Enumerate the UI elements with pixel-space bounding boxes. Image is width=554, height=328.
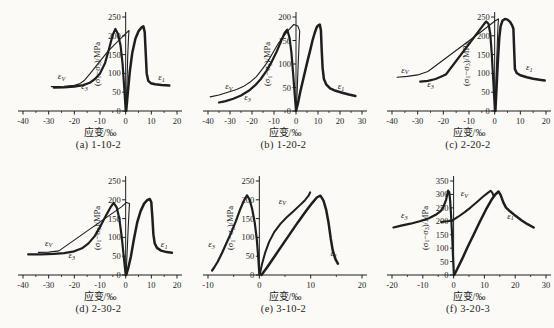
curve-eps1: [296, 25, 355, 112]
x-tick-label: -40: [386, 116, 397, 126]
subplot-e: -1001020050100150200250应变/‰(σ1−σ3)/MPaε3…: [185, 164, 370, 328]
x-tick-label: -20: [246, 116, 257, 126]
curve-label-eps1: ε1: [337, 81, 344, 92]
curve-label-epsV: εV: [45, 238, 54, 249]
x-tick-label: 10: [147, 280, 156, 290]
y-tick-label: 100: [278, 59, 291, 69]
y-tick-label: 350: [436, 176, 449, 186]
curve-eps1: [126, 26, 169, 111]
x-tick-label: 20: [172, 116, 181, 126]
y-tick-label: 100: [436, 243, 449, 253]
x-tick-label: 20: [335, 116, 344, 126]
caption-c: (c) 2-20-2: [370, 139, 554, 150]
y-tick-label: 200: [278, 12, 291, 22]
y-tick-label: 150: [477, 50, 490, 60]
x-tick-label: 0: [293, 116, 297, 126]
chart-c: -40-30-20-1001020050100150200250应变/‰(σ1−…: [370, 5, 554, 139]
x-tick-label: -20: [68, 280, 79, 290]
x-tick-label: 20: [172, 280, 181, 290]
x-tick-label: -10: [94, 280, 105, 290]
x-axis-label: 应变/‰: [268, 126, 301, 138]
x-tick-label: -40: [202, 116, 213, 126]
y-tick-label: 100: [241, 232, 254, 242]
x-axis-label: 应变/‰: [83, 126, 116, 138]
x-tick-label: 0: [451, 280, 455, 290]
y-tick-label: 0: [116, 270, 120, 280]
x-tick-label: -10: [417, 280, 428, 290]
x-tick-label: 10: [306, 280, 315, 290]
x-tick-label: 20: [357, 280, 366, 290]
figure-panel: -40-30-20-1001020050100150200250应变/‰(σ1−…: [0, 0, 554, 328]
y-axis-label: (σ1−σ3)/MPa: [420, 206, 431, 250]
x-tick-label: -10: [463, 116, 474, 126]
caption-a: (a) 1-10-2: [0, 139, 185, 150]
curve-label-eps1: ε1: [160, 239, 167, 250]
curve-label-epsV: εV: [461, 188, 470, 199]
y-tick-label: 100: [107, 232, 120, 242]
subplot-a: -40-30-20-1001020050100150200250应变/‰(σ1−…: [0, 0, 185, 164]
curve-label-epsV: εV: [401, 65, 410, 76]
curve-label-epsV: εV: [225, 81, 234, 92]
x-tick-label: 10: [313, 116, 322, 126]
curve-label-eps1: ε1: [158, 72, 165, 83]
y-tick-label: 0: [286, 106, 290, 116]
chart-f: -20-100102030050100150200250300350应变/‰(σ…: [370, 169, 554, 303]
y-tick-label: 0: [250, 270, 254, 280]
x-axis-label: 应变/‰: [453, 126, 486, 138]
y-tick-label: 250: [241, 176, 254, 186]
x-tick-label: -20: [68, 116, 79, 126]
curve-eps1: [495, 19, 544, 111]
y-tick-label: 250: [107, 176, 120, 186]
x-tick-label: -20: [438, 116, 449, 126]
curve-label-eps1: ε1: [330, 248, 337, 259]
caption-d: (d) 2-30-2: [0, 303, 185, 314]
y-tick-label: 250: [107, 12, 120, 22]
chart-a: -40-30-20-1001020050100150200250应变/‰(σ1−…: [1, 5, 185, 139]
y-tick-label: 50: [112, 251, 121, 261]
y-tick-label: 150: [107, 50, 120, 60]
y-tick-label: 250: [477, 12, 490, 22]
x-tick-label: -30: [42, 116, 53, 126]
x-tick-label: 0: [123, 116, 127, 126]
x-tick-label: -30: [224, 116, 235, 126]
subplot-b: -40-30-20-100102030050100150200应变/‰(σ1−σ…: [185, 0, 370, 164]
x-tick-label: -20: [386, 280, 397, 290]
y-tick-label: 0: [485, 106, 489, 116]
curve-label-epsV: εV: [57, 71, 66, 82]
x-tick-label: 0: [123, 280, 127, 290]
curve-eps1: [454, 192, 534, 276]
x-tick-label: -30: [42, 280, 53, 290]
chart-e: -1001020050100150200250应变/‰(σ1−σ3)/MPaε3…: [186, 169, 370, 303]
subplot-d: -40-30-20-1001020050100150200250应变/‰(σ1−…: [0, 164, 185, 328]
curve-eps1: [126, 199, 172, 275]
y-tick-label: 50: [112, 87, 121, 97]
x-axis-label: 应变/‰: [268, 290, 301, 302]
x-tick-label: 30: [357, 116, 366, 126]
subplot-f: -20-100102030050100150200250300350应变/‰(σ…: [370, 164, 554, 328]
caption-b: (b) 1-20-2: [185, 139, 370, 150]
y-axis-label: (σ1−σ3)/MPa: [91, 206, 102, 250]
y-tick-label: 50: [282, 83, 291, 93]
y-tick-label: 100: [107, 68, 120, 78]
x-axis-label: 应变/‰: [453, 290, 486, 302]
caption-f: (f) 3-20-3: [370, 303, 554, 314]
x-tick-label: -40: [17, 280, 28, 290]
y-tick-label: 50: [481, 87, 490, 97]
y-tick-label: 50: [440, 257, 449, 267]
x-axis-label: 应变/‰: [83, 290, 116, 302]
x-tick-label: 10: [147, 116, 156, 126]
curve-label-eps3: ε3: [401, 210, 408, 221]
x-tick-label: -10: [268, 116, 279, 126]
subplot-c: -40-30-20-1001020050100150200250应变/‰(σ1−…: [370, 0, 554, 164]
x-tick-label: -10: [94, 116, 105, 126]
curve-label-eps1: ε1: [526, 62, 533, 73]
y-tick-label: 50: [245, 251, 254, 261]
x-tick-label: 0: [493, 116, 497, 126]
x-tick-label: -40: [17, 116, 28, 126]
x-tick-label: -30: [412, 116, 423, 126]
x-tick-label: -10: [202, 280, 213, 290]
chart-b: -40-30-20-100102030050100150200应变/‰(σ1−σ…: [186, 5, 370, 139]
curve-label-eps3: ε3: [208, 239, 215, 250]
y-tick-label: 100: [477, 68, 490, 78]
caption-e: (e) 3-10-2: [185, 303, 370, 314]
